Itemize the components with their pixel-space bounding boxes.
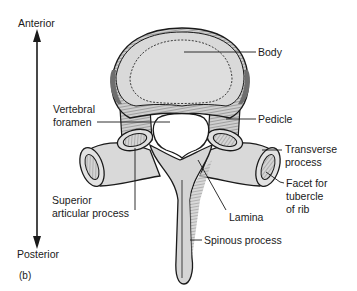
pedicle-label: Pedicle bbox=[258, 113, 292, 126]
lamina-and-spinous-process bbox=[150, 145, 212, 284]
spinous-process-label: Spinous process bbox=[204, 234, 282, 247]
lamina-label: Lamina bbox=[229, 211, 263, 224]
posterior-label: Posterior bbox=[17, 248, 59, 261]
superior-articular-process-label: Superior articular process bbox=[52, 194, 129, 220]
vertebral-body bbox=[110, 28, 250, 118]
panel-label: (b) bbox=[19, 269, 31, 282]
transverse-process-left bbox=[75, 143, 160, 190]
anterior-posterior-arrow bbox=[33, 29, 41, 249]
facet-label: Facet for tubercle of rib bbox=[286, 177, 327, 216]
vertebral-foramen-label: Vertebral foramen bbox=[53, 103, 95, 129]
vertebra-diagram: Anterior Posterior (b) Body Pedicle Vert… bbox=[0, 0, 357, 291]
body-label: Body bbox=[258, 46, 282, 59]
anterior-label: Anterior bbox=[18, 17, 55, 30]
transverse-process-label: Transverse process bbox=[285, 143, 337, 169]
